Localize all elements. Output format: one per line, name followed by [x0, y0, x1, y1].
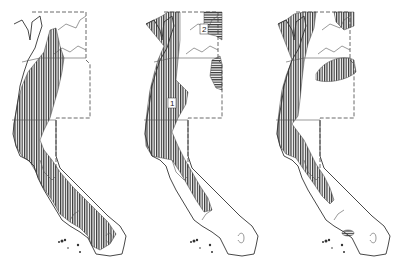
region-label-1: 1	[170, 99, 175, 108]
map-3	[276, 12, 390, 256]
figure-maps: 1 2	[0, 0, 401, 271]
hatched-region	[277, 12, 334, 204]
map-1	[12, 12, 126, 256]
hatched-region-2b	[210, 56, 222, 90]
hatched-ellipse	[316, 58, 356, 82]
map-2: 1 2	[144, 12, 258, 256]
hatched-region-ne	[334, 12, 354, 30]
hatched-region	[14, 28, 116, 250]
hatched-region-1	[145, 12, 212, 212]
region-label-2: 2	[202, 25, 207, 34]
